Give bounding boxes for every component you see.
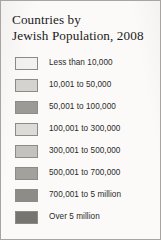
legend-swatch-icon [15,167,38,180]
legend-title-line-1: Countries by [12,12,160,28]
legend-entry: 50,001 to 100,000 [1,96,160,118]
legend-title: Countries by Jewish Population, 2008 [1,1,160,43]
legend-entry: 10,001 to 50,000 [1,74,160,96]
legend-entry: 500,001 to 700,000 [1,162,160,184]
legend-entry-label: 10,001 to 50,000 [49,80,111,90]
legend-entry-list: Less than 10,000 10,001 to 50,000 50,001… [1,43,160,228]
legend-entry-label: 50,001 to 100,000 [49,102,116,112]
legend-entry: Less than 10,000 [1,52,160,74]
legend-entry: 100,001 to 300,000 [1,118,160,140]
legend-entry-label: Less than 10,000 [49,58,113,68]
legend-swatch-icon [15,189,38,202]
legend-entry-label: 100,001 to 300,000 [49,124,120,134]
legend-title-line-2: Jewish Population, 2008 [12,28,160,44]
map-legend-card: Countries by Jewish Population, 2008 Les… [0,0,161,240]
legend-entry-label: 700,001 to 5 million [49,190,121,200]
legend-entry-label: 500,001 to 700,000 [49,168,120,178]
legend-swatch-icon [15,101,38,114]
legend-entry-label: Over 5 million [49,212,100,222]
legend-swatch-icon [15,123,38,136]
legend-swatch-icon [15,57,38,70]
legend-swatch-icon [15,211,38,224]
legend-entry: 300,001 to 500,000 [1,140,160,162]
legend-entry-label: 300,001 to 500,000 [49,146,120,156]
legend-entry: Over 5 million [1,206,160,228]
legend-swatch-icon [15,79,38,92]
legend-entry: 700,001 to 5 million [1,184,160,206]
legend-swatch-icon [15,145,38,158]
